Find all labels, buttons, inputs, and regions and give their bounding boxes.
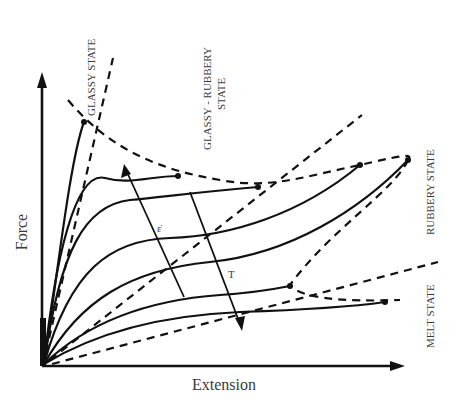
failure-point-3 [255,184,261,190]
temperature-arrowhead-icon [235,316,245,331]
glassy-boundary-line [46,58,113,352]
failure-point-2 [175,173,181,179]
failure-point-7 [382,299,388,305]
failure-envelope-lower [290,160,408,300]
x-axis-label: Extension [192,376,256,393]
failure-point-5 [405,157,411,163]
failure-envelope-upper [68,100,409,183]
x-axis-arrowhead-icon [390,361,405,371]
failure-point-4 [357,162,363,168]
force-extension-diagram: Force Extension GLASSY STATE GLASSY - RU… [0,0,450,405]
curve-7 [44,302,385,364]
failure-point-1 [81,119,87,125]
y-axis-label: Force [13,214,30,250]
failure-point-6 [287,283,293,289]
rubbery-state-label: RUBBERY STATE [424,149,436,235]
glassy-state-label: GLASSY STATE [85,38,97,116]
curve-6 [44,286,290,364]
strain-rate-arrow-label: ε̇ [157,222,163,234]
glassy-rubbery-label-line1: GLASSY - RUBBERY [201,47,213,150]
glassy-rubbery-label-line2: STATE [215,78,227,110]
y-axis-arrowhead-icon [37,72,47,88]
melt-state-label: MELT STATE [424,284,436,348]
temperature-arrow-label: T [228,268,235,280]
curve-4 [44,165,360,364]
curves [44,122,408,364]
